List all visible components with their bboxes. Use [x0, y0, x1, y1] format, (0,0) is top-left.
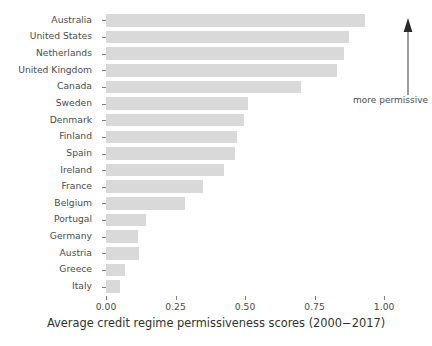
y-axis-tick-label: United Kingdom [0, 65, 92, 75]
y-axis-tick-label: Austria [0, 248, 92, 258]
y-axis-tick-label: United States [0, 31, 92, 41]
x-axis-tick-label: 0.00 [76, 301, 136, 312]
bar [106, 230, 138, 243]
x-axis-tick-mark [176, 296, 177, 300]
bar-row [106, 178, 398, 195]
bar [106, 97, 248, 110]
y-axis-tick-label: Denmark [0, 115, 92, 125]
bar-row [106, 278, 398, 295]
bar-row [106, 29, 398, 46]
bar [106, 114, 244, 127]
bar-row [106, 195, 398, 212]
x-axis-tick-label: 1.00 [354, 301, 414, 312]
bar-chart: AustraliaUnited StatesNetherlandsUnited … [0, 0, 432, 346]
y-axis-tick-label: Portugal [0, 214, 92, 224]
bar-row [106, 12, 398, 29]
y-axis-tick-label: Finland [0, 131, 92, 141]
y-axis-tick-label: Greece [0, 264, 92, 274]
y-axis-tick-label: Ireland [0, 165, 92, 175]
bar [106, 31, 349, 44]
y-axis-tick-label: Canada [0, 81, 92, 91]
y-axis-tick-label: Spain [0, 148, 92, 158]
x-axis-tick-mark [245, 296, 246, 300]
bar-row [106, 79, 398, 96]
y-axis-tick-label: Australia [0, 15, 92, 25]
bar [106, 164, 224, 177]
x-axis-tick-mark [106, 296, 107, 300]
bar-row [106, 245, 398, 262]
y-axis-tick-label: France [0, 181, 92, 191]
bar [106, 180, 203, 193]
bar-row [106, 112, 398, 129]
more-permissive-arrow-icon [398, 17, 418, 97]
y-axis-tick-label: Germany [0, 231, 92, 241]
bar [106, 47, 344, 60]
bar-row [106, 129, 398, 146]
bar [106, 64, 337, 77]
y-axis-tick-label: Netherlands [0, 48, 92, 58]
bar-row [106, 45, 398, 62]
bar [106, 214, 146, 227]
y-axis-tick-label: Sweden [0, 98, 92, 108]
bar [106, 14, 365, 27]
bar-row [106, 145, 398, 162]
bar [106, 280, 120, 293]
bar-row [106, 62, 398, 79]
bar-row [106, 162, 398, 179]
more-permissive-label: more permissive [318, 95, 428, 106]
x-axis-title: Average credit regime permissiveness sco… [0, 316, 432, 330]
bar-row [106, 262, 398, 279]
bar [106, 131, 237, 144]
bar [106, 147, 235, 160]
bar-row [106, 228, 398, 245]
y-axis-tick-label: Belgium [0, 198, 92, 208]
x-axis-tick-label: 0.25 [146, 301, 206, 312]
x-axis-tick-label: 0.50 [215, 301, 275, 312]
bar [106, 264, 125, 277]
x-axis-tick-mark [315, 296, 316, 300]
bar [106, 197, 185, 210]
x-axis-tick-mark [384, 296, 385, 300]
bar-row [106, 212, 398, 229]
x-axis-tick-label: 0.75 [285, 301, 345, 312]
y-axis-tick-label: Italy [0, 281, 92, 291]
bar [106, 247, 139, 260]
bar [106, 81, 301, 94]
